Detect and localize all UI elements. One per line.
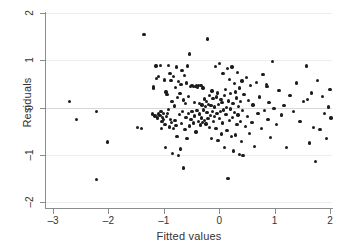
data-point [232,149,235,152]
data-point [241,109,244,112]
x-axis-line [45,208,333,209]
gridline-y--1 [46,155,332,156]
data-point [250,121,253,124]
data-point [321,95,324,98]
data-point [211,110,214,113]
data-point [188,124,191,127]
data-point [106,140,109,143]
data-point [154,64,157,67]
data-point [177,154,180,157]
x-tick-label-2: 2 [320,215,340,227]
data-point [181,110,184,113]
data-point [253,145,256,148]
y-tick-label-0: 0 [24,100,36,116]
data-point [205,111,208,114]
data-point [239,120,242,123]
y-tick--1 [40,155,45,156]
data-point [210,137,213,140]
y-tick-1 [40,60,45,61]
data-point [178,113,181,116]
data-point [310,91,313,94]
data-point [208,126,211,129]
data-point [230,65,233,68]
data-point [157,75,160,78]
data-point [183,128,186,131]
data-point [179,147,182,150]
data-point [184,116,187,119]
data-point [214,65,217,68]
data-point [164,146,167,149]
data-point [212,120,215,123]
data-point [165,93,168,96]
data-point [220,132,223,135]
data-point [298,120,301,123]
data-point [277,89,280,92]
gridline-y-0 [46,108,332,109]
data-point [260,127,263,130]
data-point [160,127,163,130]
data-point [174,124,177,127]
data-point [234,133,237,136]
data-point [199,123,202,126]
data-point [162,118,165,121]
x-tick--3 [53,209,54,214]
data-point [325,137,328,140]
data-point [224,88,227,91]
data-point [246,115,249,118]
data-point [240,140,243,143]
data-point [68,100,71,103]
data-point [235,123,238,126]
data-point [266,118,269,121]
x-tick--2 [108,209,109,214]
data-point [269,136,272,139]
data-point [168,72,171,75]
data-point [176,96,179,99]
data-point [186,64,189,67]
data-point [209,114,212,117]
x-tick--1 [164,209,165,214]
data-point [282,104,285,107]
data-point [185,137,188,140]
data-point [95,178,98,181]
gridline-y--2 [46,202,332,203]
x-tick-label-1: 1 [265,215,285,227]
data-point [255,81,258,84]
data-point [288,94,291,97]
y-tick-label-2: 2 [24,5,36,21]
data-point [226,67,229,70]
y-axis-line [45,12,46,209]
data-point [228,119,231,122]
x-tick-1 [275,209,276,214]
data-point [192,121,195,124]
data-point [175,65,178,68]
data-point [230,135,233,138]
data-point [229,92,232,95]
data-point [227,99,230,102]
data-point [292,110,295,113]
data-point [238,86,241,89]
data-point [172,127,175,130]
data-point [244,125,247,128]
data-point [214,127,217,130]
data-point [256,112,259,115]
y-tick-label-1: 1 [24,52,36,68]
data-point [173,104,176,107]
data-point [235,96,238,99]
data-point [215,95,218,98]
data-point [201,86,204,89]
y-tick-label--2: –2 [24,194,36,210]
data-point [213,115,216,118]
x-tick-label--1: –1 [154,215,174,227]
data-point [229,107,232,110]
data-point [184,102,187,105]
data-point [167,108,170,111]
data-point [248,132,251,135]
y-tick--2 [40,202,45,203]
data-point [272,107,275,110]
data-point [239,100,242,103]
data-point [247,99,250,102]
data-point [328,88,331,91]
x-tick-label--3: –3 [43,215,63,227]
data-point [220,101,223,104]
data-point [228,78,231,81]
